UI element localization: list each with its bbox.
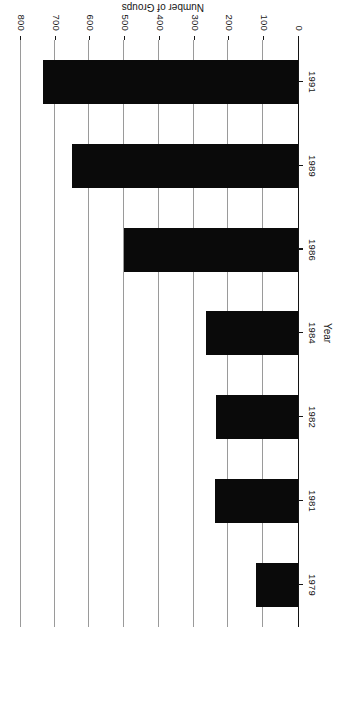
bar-1986 <box>124 228 298 272</box>
chart-figure: 0 100 200 300 400 500 600 700 800 Number… <box>0 0 342 707</box>
plot-area <box>21 40 299 627</box>
y-tick-label-1979: 1979 <box>296 574 318 585</box>
y-axis-title: Year <box>313 322 333 333</box>
x-tick-label-0: 0 <box>294 20 299 31</box>
gridline-700 <box>54 40 55 627</box>
gridline-500 <box>123 40 124 627</box>
bar-1991 <box>43 60 298 104</box>
x-tick-label-700: 700 <box>39 20 55 31</box>
gridline-400 <box>158 40 159 627</box>
y-tick-label-1986: 1986 <box>296 239 318 250</box>
bar-1981 <box>215 479 298 523</box>
chart-rotated-canvas: 0 100 200 300 400 500 600 700 800 Number… <box>0 0 342 707</box>
bar-1989 <box>72 144 298 188</box>
y-tick-label-1982: 1982 <box>296 406 318 417</box>
bar-1982 <box>216 395 298 439</box>
x-tick-label-100: 100 <box>248 20 264 31</box>
bar-1979 <box>256 563 298 607</box>
gridline-600 <box>89 40 90 627</box>
x-tick-label-400: 400 <box>144 20 160 31</box>
bar-1984 <box>206 311 298 355</box>
y-tick-label-1989: 1989 <box>296 155 318 166</box>
x-tick-label-800: 800 <box>5 20 21 31</box>
x-axis-title: Number of Groups <box>122 2 204 13</box>
y-tick-label-1981: 1981 <box>296 490 318 501</box>
x-tick-label-300: 300 <box>178 20 194 31</box>
y-tick-label-1991: 1991 <box>296 71 318 82</box>
x-tick-label-500: 500 <box>109 20 125 31</box>
gridline-300 <box>193 40 194 627</box>
gridline-800 <box>20 40 21 627</box>
x-tick-label-200: 200 <box>213 20 229 31</box>
x-tick-label-600: 600 <box>74 20 90 31</box>
